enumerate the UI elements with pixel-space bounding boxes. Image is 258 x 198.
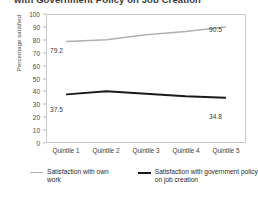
y-axis-ticks: 1009080706050403020100 [20, 9, 46, 148]
chart-title: with Government Policy on Job Creation [14, 0, 254, 5]
data-label-own-work-first: 79.2 [50, 47, 63, 54]
legend-item-gov-policy: Satisfaction with government policy on j… [138, 168, 258, 194]
legend-label-own-work: Satisfaction with own work [47, 168, 124, 185]
data-label-own-work-last: 90.5 [209, 26, 222, 33]
y-tick-label: 30 [20, 101, 40, 108]
x-tick-label-5: Quintile 5 [206, 146, 246, 158]
legend-line-icon-own-work [30, 172, 43, 173]
series-line-gov-policy [67, 91, 225, 98]
legend-item-own-work: Satisfaction with own work [30, 168, 124, 194]
y-tick-label: 20 [20, 114, 40, 121]
y-tick-label: 100 [20, 11, 40, 18]
y-tick-label: 10 [20, 127, 40, 134]
chart-legend: Satisfaction with own work Satisfaction … [30, 168, 258, 194]
data-label-gov-policy-last: 34.8 [209, 113, 222, 120]
y-tick-label: 40 [20, 88, 40, 95]
y-tick-label: 50 [20, 75, 40, 82]
series-lines [47, 15, 245, 142]
x-tick-label-4: Quintile 4 [166, 146, 206, 158]
plot-area [46, 14, 246, 143]
x-tick-label-1: Quintile 1 [46, 146, 86, 158]
x-tick-label-2: Quintile 2 [86, 146, 126, 158]
y-tick-label: 80 [20, 36, 40, 43]
series-line-own-work [67, 27, 225, 41]
y-tick-label: 60 [20, 62, 40, 69]
line-chart: with Government Policy on Job Creation P… [0, 0, 258, 198]
y-tick-label: 90 [20, 23, 40, 30]
legend-line-icon-gov-policy [138, 172, 151, 174]
x-axis-labels: Quintile 1Quintile 2Quintile 3Quintile 4… [46, 146, 246, 158]
y-tick-label: 0 [20, 140, 40, 147]
legend-label-gov-policy: Satisfaction with government policy on j… [155, 168, 258, 185]
y-tick-label: 70 [20, 49, 40, 56]
x-tick-label-3: Quintile 3 [126, 146, 166, 158]
data-label-gov-policy-first: 37.5 [50, 106, 63, 113]
